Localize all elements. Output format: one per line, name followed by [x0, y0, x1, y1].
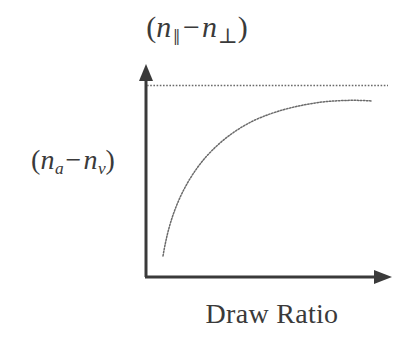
y-axis	[139, 64, 153, 277]
y-axis-label-subscript-v: v	[97, 159, 105, 178]
asymptote-label-subscript-perpendicular: ⊥	[217, 24, 238, 48]
y-axis-label-symbol-1: n	[40, 144, 54, 175]
y-axis-label-minus-operator: −	[64, 144, 84, 175]
birefringence-curve	[163, 100, 372, 256]
asymptote-label: (n‖−n⊥)	[0, 12, 394, 49]
figure-root: (n‖−n⊥) (na−nv) Draw Ratio	[0, 0, 412, 349]
y-axis-label-close-paren: )	[106, 144, 115, 175]
y-axis-label-open-paren: (	[31, 144, 40, 175]
asymptote-label-subscript-parallel: ‖	[171, 24, 181, 50]
asymptote-label-open-paren: (	[146, 10, 156, 43]
x-axis	[145, 270, 392, 284]
y-axis-label-symbol-2: n	[83, 144, 97, 175]
asymptote-label-close-paren: )	[238, 10, 248, 43]
asymptote-label-minus-operator: −	[181, 10, 202, 43]
y-axis-label-subscript-a: a	[54, 159, 63, 178]
y-axis-label: (na−nv)	[8, 146, 138, 177]
asymptote-label-symbol-1: n	[156, 10, 171, 43]
asymptote-label-symbol-2: n	[202, 10, 217, 43]
x-axis-arrowhead-icon	[374, 270, 392, 284]
x-axis-label: Draw Ratio	[146, 300, 398, 328]
y-axis-arrowhead-icon	[139, 64, 153, 81]
